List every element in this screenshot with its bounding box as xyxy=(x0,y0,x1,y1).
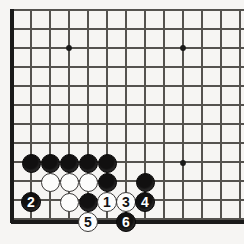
stone-white-move-5[interactable]: 5 xyxy=(78,212,98,232)
stone-black-move-2-label: 2 xyxy=(27,195,35,209)
stone-black-a[interactable] xyxy=(22,154,41,173)
stone-black-c[interactable] xyxy=(60,154,79,173)
stone-black-j[interactable] xyxy=(136,173,155,192)
stone-black-move-6-label: 6 xyxy=(122,215,130,229)
star-point-lower-right xyxy=(180,160,186,166)
stone-black-l[interactable] xyxy=(79,193,98,212)
stone-black-i[interactable] xyxy=(98,173,117,192)
stone-white-k[interactable] xyxy=(60,193,79,212)
stone-black-move-4-label: 4 xyxy=(141,195,149,209)
stone-white-move-3[interactable]: 3 xyxy=(116,192,136,212)
stone-black-move-2[interactable]: 2 xyxy=(21,192,41,212)
stone-black-move-6[interactable]: 6 xyxy=(116,212,136,232)
stone-white-move-1[interactable]: 1 xyxy=(97,192,117,212)
stone-black-b[interactable] xyxy=(41,154,60,173)
stone-black-d[interactable] xyxy=(79,154,98,173)
star-point-upper-left xyxy=(66,45,72,51)
stone-white-move-3-label: 3 xyxy=(122,195,130,209)
stone-black-move-4[interactable]: 4 xyxy=(135,192,155,212)
stone-white-f[interactable] xyxy=(41,173,60,192)
stone-white-move-1-label: 1 xyxy=(103,195,111,209)
stone-white-move-5-label: 5 xyxy=(84,215,92,229)
stone-white-h[interactable] xyxy=(79,173,98,192)
stone-white-g[interactable] xyxy=(60,173,79,192)
stone-black-e[interactable] xyxy=(98,154,117,173)
star-point-upper-right xyxy=(180,45,186,51)
go-board-diagram: 213456 xyxy=(0,0,244,244)
